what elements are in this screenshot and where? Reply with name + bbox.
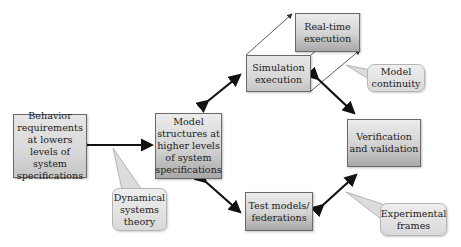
arrow-simulation-verification: [318, 79, 354, 113]
callout-model-continuity: Model continuity: [367, 64, 425, 92]
node-label: Behavior requirements at lowers levels o…: [14, 110, 86, 182]
callout-experimental-frames: Experimental frames: [380, 203, 447, 236]
node-label: Real-time execution: [296, 21, 359, 45]
node-label: Verification and validation: [348, 131, 420, 155]
callout-dynamical-systems-theory: Dynamical systems theory: [112, 188, 167, 231]
callout-label: Experimental frames: [381, 208, 446, 232]
node-model-structures: Model structures at higher levels of sys…: [155, 113, 222, 179]
arrow-test-verification: [323, 175, 356, 205]
node-label: Model structures at higher levels of sys…: [155, 116, 221, 176]
node-label: Test models/ federations: [246, 200, 312, 224]
node-simulation-execution: Simulation execution: [246, 55, 311, 92]
callout-label: Model continuity: [368, 66, 424, 90]
arrow-model-test: [206, 182, 240, 212]
node-test-models: Test models/ federations: [245, 192, 313, 231]
node-realtime-execution: Real-time execution: [295, 13, 360, 52]
arrow-model-simulation: [208, 75, 240, 101]
node-verification-validation: Verification and validation: [347, 119, 421, 167]
callout-label: Dynamical systems theory: [113, 192, 166, 228]
node-behavior-requirements: Behavior requirements at lowers levels o…: [13, 114, 87, 178]
node-label: Simulation execution: [247, 62, 310, 86]
callout-tail-dynamical: [113, 148, 142, 190]
